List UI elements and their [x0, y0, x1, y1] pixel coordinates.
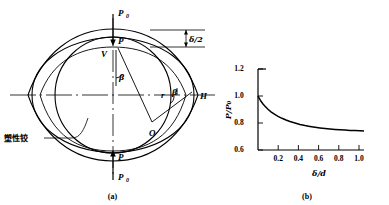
figure-root: P 0 P 0 P P V H O β β r δ/2 塑性铰 (a) [0, 0, 389, 205]
label-point-v: V [101, 49, 108, 59]
arrow-down-icon [110, 40, 116, 47]
x-tick-label-1: 0.4 [294, 154, 304, 163]
data-curve [258, 96, 364, 131]
x-tick-label-3: 0.8 [334, 154, 344, 163]
y-tick-label-2: 1.0 [234, 91, 244, 100]
chart-svg: 0.6 0.8 1.0 1.2 0.2 0.4 0.6 0.8 1.0 δ/d … [225, 0, 389, 205]
leader-curve [72, 118, 88, 138]
panel-a-diagram: P 0 P 0 P P V H O β β r δ/2 塑性铰 (a) [0, 0, 225, 205]
caption-panel-b: (b) [225, 192, 389, 201]
label-radius-r: r [161, 90, 165, 100]
label-beta-upper: β [118, 72, 125, 82]
label-top-load: P [118, 8, 124, 18]
label-point-p-top: P [118, 36, 124, 46]
label-point-p-bottom: P [118, 152, 124, 162]
diagram-svg: P 0 P 0 P P V H O β β r δ/2 塑性铰 [0, 0, 225, 205]
label-plastic-hinge: 塑性铰 [4, 133, 28, 143]
dim-arrow-up-icon [184, 30, 188, 35]
y-tick-marks [258, 69, 263, 150]
label-beta-lower: β [171, 87, 178, 97]
x-axis-title: δ/d [311, 168, 326, 178]
x-tick-label-0: 0.2 [274, 154, 284, 163]
label-point-o: O [149, 128, 156, 138]
label-deflection-delta: δ/2 [188, 34, 203, 44]
x-tick-label-2: 0.6 [314, 154, 324, 163]
label-point-h: H [199, 91, 208, 101]
dim-arrow-down-icon [184, 43, 188, 48]
y-tick-label-0: 0.6 [234, 145, 244, 154]
inner-arc-lower-left [40, 95, 113, 151]
label-bottom-load-subscript: 0 [126, 177, 129, 183]
y-axis-title: P/P₀ [225, 100, 233, 120]
x-tick-marks [278, 145, 359, 150]
panel-b-chart: 0.6 0.8 1.0 1.2 0.2 0.4 0.6 0.8 1.0 δ/d … [225, 0, 389, 205]
y-tick-label-3: 1.2 [234, 64, 244, 73]
y-tick-label-1: 0.8 [234, 118, 244, 127]
x-tick-label-4: 1.0 [354, 154, 364, 163]
caption-panel-a: (a) [0, 192, 225, 201]
label-top-load-subscript: 0 [126, 13, 129, 19]
inner-arc-lower-right [113, 95, 186, 151]
radius-line-vo [118, 48, 152, 122]
label-bottom-load: P [118, 172, 124, 182]
